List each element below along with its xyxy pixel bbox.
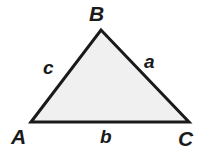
side-label-b: b [100,127,112,146]
triangle-polygon [31,30,189,122]
vertex-label-b: B [89,3,104,24]
triangle-figure: B A C c a b [0,0,202,152]
side-label-a: a [144,52,155,71]
vertex-label-c: C [178,128,193,149]
vertex-label-a: A [11,126,26,147]
side-label-c: c [43,58,54,77]
